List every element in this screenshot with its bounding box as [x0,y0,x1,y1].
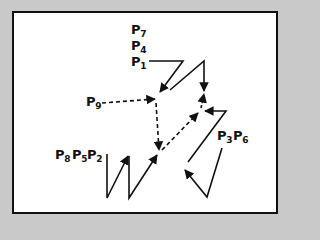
vertical-dashed-arrow [156,103,159,150]
diagonal-dashed-arrow [162,113,198,150]
label-p5: P5 [72,148,87,164]
p5-path [129,155,157,198]
label-p1: P1 [131,55,146,71]
p9-dashed-arrow [102,99,155,103]
center-to-right-path [170,61,204,91]
label-p6: P6 [233,129,248,145]
label-p2: P2 [87,148,102,164]
p1-path [149,61,183,92]
p6-path [185,148,222,197]
label-p3: P3 [217,129,232,145]
p8-path [107,154,128,198]
label-p4: P4 [131,39,146,55]
short-up-dashed-arrow [201,94,204,108]
label-p7: P7 [131,23,146,39]
label-p8: P8 [55,148,70,164]
label-p9: P9 [86,95,101,111]
